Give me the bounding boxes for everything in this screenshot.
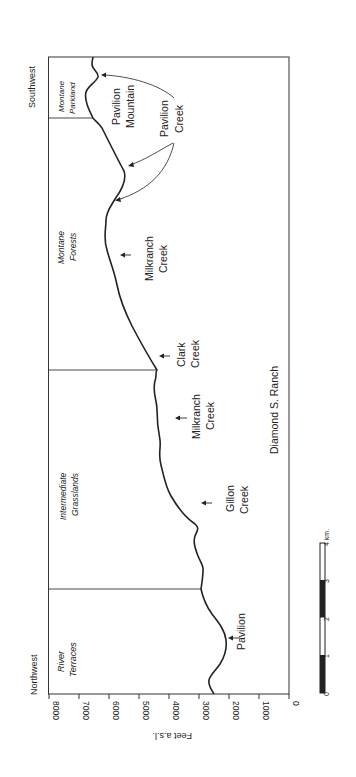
svg-text:Clark: Clark xyxy=(175,342,187,367)
y-tick-label: 8000 xyxy=(51,701,61,720)
svg-text:2: 2 xyxy=(323,617,330,621)
y-tick-label: 1000 xyxy=(261,701,271,720)
svg-text:4 km.: 4 km. xyxy=(323,529,330,546)
svg-text:Terraces: Terraces xyxy=(68,642,78,677)
annotation-milkranch-creek-lower: Milkranch Creek xyxy=(175,394,216,439)
svg-text:Mountain: Mountain xyxy=(124,85,136,128)
svg-text:Pavilion: Pavilion xyxy=(235,613,247,650)
svg-text:Montane: Montane xyxy=(57,80,66,112)
svg-text:Montane: Montane xyxy=(56,231,66,264)
svg-text:Intermediate: Intermediate xyxy=(58,472,68,520)
svg-text:River: River xyxy=(56,650,66,672)
svg-text:Creek: Creek xyxy=(204,401,216,430)
y-axis-title: Feet a.s.l. xyxy=(152,731,192,741)
svg-text:Gillon: Gillon xyxy=(224,485,236,512)
scale-bar: 0 1 2 3 4 km. xyxy=(320,529,330,696)
svg-text:Creek: Creek xyxy=(238,485,250,514)
svg-text:Grasslands: Grasslands xyxy=(70,472,80,516)
y-tick-label: 5000 xyxy=(141,701,151,720)
svg-text:Milkranch: Milkranch xyxy=(190,394,202,439)
y-tick-label: 7000 xyxy=(81,701,91,720)
zone-label-montane-forests: Montane Forests xyxy=(56,231,78,264)
svg-text:Parkland: Parkland xyxy=(68,82,77,114)
svg-text:Pavilion: Pavilion xyxy=(110,88,122,125)
direction-southwest: Southwest xyxy=(27,65,37,108)
annotation-clark-creek: Clark Creek xyxy=(159,339,201,368)
svg-text:Forests: Forests xyxy=(68,232,78,261)
y-axis: 8000 7000 6000 5000 4000 3000 2000 1000 … xyxy=(49,694,301,741)
svg-text:Creek: Creek xyxy=(173,104,185,133)
annotation-pavilion: Pavilion xyxy=(228,613,247,650)
svg-text:1: 1 xyxy=(323,654,330,658)
annotation-milkranch-creek-upper: Milkranch Creek xyxy=(120,236,169,281)
y-tick-label: 0 xyxy=(291,701,301,706)
annotation-gillon-creek: Gillon Creek xyxy=(201,485,250,514)
elevation-profile-figure: 8000 7000 6000 5000 4000 3000 2000 1000 … xyxy=(0,0,356,777)
svg-text:Creek: Creek xyxy=(189,339,201,368)
annotation-pavilion-mountain: Pavilion Mountain xyxy=(110,85,136,128)
y-tick-label: 4000 xyxy=(171,701,181,720)
y-tick-label: 2000 xyxy=(231,701,241,720)
svg-text:3: 3 xyxy=(323,579,330,583)
svg-text:Creek: Creek xyxy=(157,244,169,273)
plot-frame xyxy=(49,57,290,694)
annotation-diamond-s-ranch: Diamond S. Ranch xyxy=(268,366,280,454)
direction-northwest: Northwest xyxy=(29,654,39,695)
zone-label-intermediate-grasslands: Intermediate Grasslands xyxy=(58,472,80,520)
svg-text:Pavilion: Pavilion xyxy=(158,100,170,137)
svg-text:Milkranch: Milkranch xyxy=(143,236,155,281)
y-tick-label: 3000 xyxy=(201,701,211,720)
zone-label-montane-parkland: Montane Parkland xyxy=(57,80,77,114)
svg-text:0: 0 xyxy=(323,692,330,696)
zone-label-river-terraces: River Terraces xyxy=(56,642,78,677)
y-tick-label: 6000 xyxy=(111,701,121,720)
